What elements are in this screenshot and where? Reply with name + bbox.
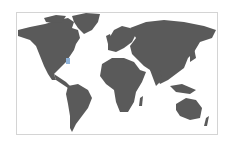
southeast-asia-islands[interactable]: [170, 84, 196, 94]
central-america[interactable]: [54, 74, 70, 88]
africa[interactable]: [100, 58, 146, 112]
madagascar[interactable]: [139, 96, 143, 106]
australia[interactable]: [176, 98, 202, 120]
south-america[interactable]: [66, 84, 92, 132]
new-zealand[interactable]: [204, 116, 209, 126]
north-america[interactable]: [18, 18, 80, 80]
highlight-region-us-east[interactable]: [66, 58, 70, 64]
world-map[interactable]: [0, 0, 235, 144]
